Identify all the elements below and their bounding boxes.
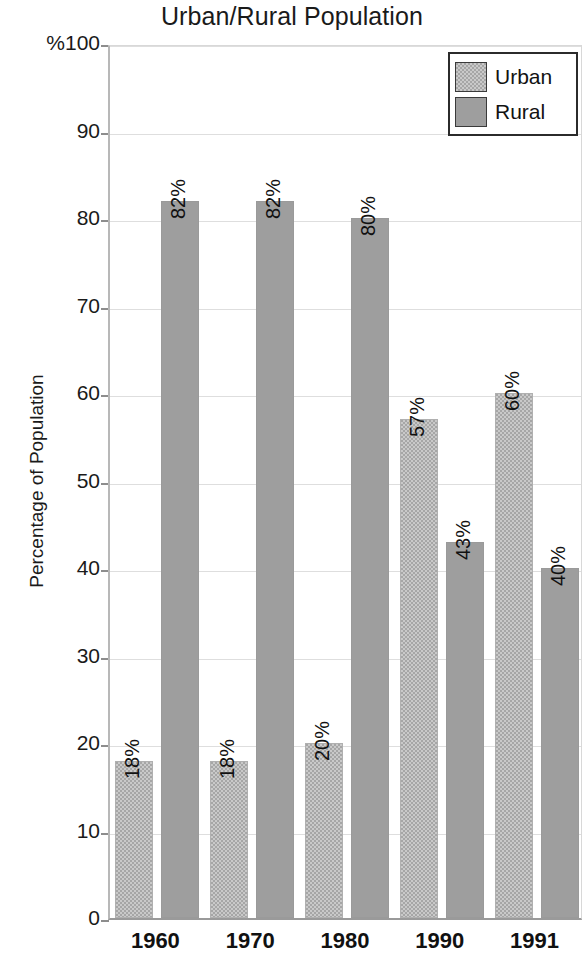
y-axis-tick-label: 80 (4, 206, 100, 230)
legend-swatch-urban-icon (455, 62, 487, 92)
bar-value-label: 18% (216, 738, 239, 778)
bar-rural-1980 (351, 218, 389, 918)
bar-urban-1960 (115, 761, 153, 919)
legend-label-rural: Rural (495, 100, 545, 124)
x-axis-tick-label-1990: 1990 (390, 928, 490, 954)
bar-urban-1990 (400, 419, 438, 918)
bar-urban-1991 (495, 393, 533, 918)
bar-value-label: 80% (357, 196, 380, 236)
chart-legend: Urban Rural (448, 52, 578, 136)
x-axis-tick-label-1991: 1991 (485, 928, 584, 954)
bar-urban-1970 (210, 761, 248, 919)
chart-title: Urban/Rural Population (0, 2, 584, 31)
y-axis-tick-label: 90 (4, 119, 100, 143)
gridline (110, 46, 581, 47)
bar-value-label: 18% (121, 738, 144, 778)
x-axis-tick-label-1980: 1980 (295, 928, 395, 954)
legend-item-rural: Rural (455, 94, 571, 129)
chart-container: Urban/Rural Population Percentage of Pop… (0, 0, 584, 967)
x-axis-tick-label-1970: 1970 (200, 928, 300, 954)
bar-value-label: 60% (501, 371, 524, 411)
y-axis-tick-mark (101, 920, 109, 922)
bar-urban-1980 (305, 743, 343, 918)
y-axis-tick-label: 40 (4, 556, 100, 580)
legend-item-urban: Urban (455, 59, 571, 94)
legend-label-urban: Urban (495, 65, 552, 89)
bar-rural-1991 (541, 568, 579, 918)
legend-swatch-rural-icon (455, 97, 487, 127)
y-axis-tick-label: 0 (4, 906, 100, 930)
bar-rural-1970 (256, 201, 294, 919)
bar-value-label: 20% (311, 721, 334, 761)
bar-value-label: 82% (167, 178, 190, 218)
y-axis-tick-label: %100 (4, 31, 100, 55)
y-axis-tick-label: 50 (4, 469, 100, 493)
bar-value-label: 57% (406, 397, 429, 437)
y-axis-tick-label: 70 (4, 294, 100, 318)
bar-value-label: 40% (547, 546, 570, 586)
y-axis-tick-label: 10 (4, 819, 100, 843)
bar-value-label: 43% (452, 520, 475, 560)
bar-rural-1960 (161, 201, 199, 919)
y-axis-tick-label: 60 (4, 381, 100, 405)
plot-area: 18%82%18%82%20%80%57%43%60%40% (108, 45, 582, 920)
bar-value-label: 82% (262, 178, 285, 218)
y-axis-tick-label: 20 (4, 731, 100, 755)
y-axis-tick-label: 30 (4, 644, 100, 668)
bar-rural-1990 (446, 542, 484, 918)
x-axis-tick-label-1960: 1960 (105, 928, 205, 954)
